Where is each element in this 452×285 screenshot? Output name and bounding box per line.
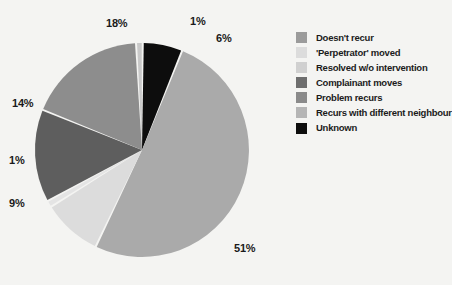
legend-color-swatch-icon <box>296 123 307 134</box>
pie-slice-percent-label: 9% <box>9 198 25 209</box>
legend-item-label: Recurs with different neighbour <box>316 108 452 118</box>
legend-item[interactable]: Unknown <box>296 123 452 134</box>
legend-item-label: Unknown <box>316 123 357 133</box>
legend-item-label: 'Perpetrator' moved <box>316 48 400 58</box>
legend-color-swatch-icon <box>296 77 307 88</box>
legend-item-label: Complainant moves <box>316 78 402 88</box>
pie-slice-percent-label: 18% <box>106 18 127 29</box>
pie-slice-percent-label: 1% <box>9 155 25 166</box>
legend-item[interactable]: Doesn't recur <box>296 32 452 43</box>
pie-slice-percent-label: 14% <box>12 98 33 109</box>
legend-item[interactable]: 'Perpetrator' moved <box>296 47 452 58</box>
pie-slice-percent-label: 6% <box>216 33 232 44</box>
legend-item-label: Doesn't recur <box>316 33 374 43</box>
legend-item-label: Resolved w/o intervention <box>316 63 427 73</box>
legend-color-swatch-icon <box>296 32 307 43</box>
legend-color-swatch-icon <box>296 47 307 58</box>
chart-legend: Doesn't recur'Perpetrator' movedResolved… <box>296 32 452 134</box>
legend-item[interactable]: Resolved w/o intervention <box>296 62 452 73</box>
pie-slice-percent-label: 1% <box>190 16 206 27</box>
legend-item[interactable]: Recurs with different neighbour <box>296 107 452 118</box>
legend-color-swatch-icon <box>296 62 307 73</box>
legend-item[interactable]: Problem recurs <box>296 92 452 103</box>
legend-item-label: Problem recurs <box>316 93 382 103</box>
legend-item[interactable]: Complainant moves <box>296 77 452 88</box>
pie-slice-group <box>35 43 249 257</box>
legend-color-swatch-icon <box>296 92 307 103</box>
legend-color-swatch-icon <box>296 107 307 118</box>
pie-slice-percent-label: 51% <box>234 243 255 254</box>
